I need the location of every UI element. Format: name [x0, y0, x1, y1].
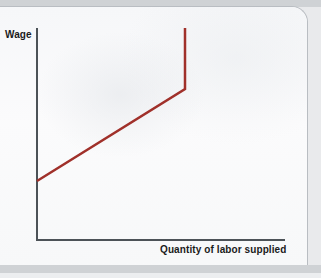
figure-screenshot: Wage Quantity of labor supplied	[0, 0, 321, 278]
plot-area: Wage Quantity of labor supplied	[0, 0, 321, 278]
labor-supply-curve	[37, 28, 185, 181]
x-axis-label: Quantity of labor supplied	[160, 244, 287, 255]
bottom-edge-band	[0, 273, 321, 278]
y-axis-label: Wage	[5, 29, 32, 40]
supply-curve-svg	[0, 0, 321, 278]
bottom-gray-band	[0, 265, 321, 273]
